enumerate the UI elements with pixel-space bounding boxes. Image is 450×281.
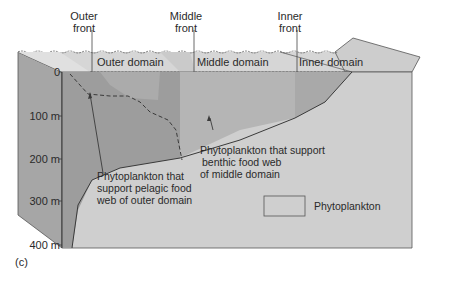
benthic-note-1: Phytoplankton that support xyxy=(200,144,325,156)
shelf-cross-section-diagram: Outer front Middle front Inner front Out… xyxy=(0,0,450,281)
legend-label: Phytoplankton xyxy=(314,200,381,212)
depth-tick-200: 200 m xyxy=(29,153,60,165)
legend-swatch xyxy=(264,196,305,216)
depth-tick-400: 400 m xyxy=(29,239,60,251)
panel-label: (c) xyxy=(15,256,28,268)
pelagic-note-3: web of outer domain xyxy=(96,194,192,206)
middle-domain-label: Middle domain xyxy=(197,56,269,68)
middle-front-label-2: front xyxy=(175,22,197,34)
benthic-note-2: benthic food web xyxy=(202,156,282,168)
depth-tick-300: 300 m xyxy=(29,195,60,207)
block-left-side xyxy=(18,52,62,248)
pelagic-note-1: Phytoplankton that xyxy=(97,170,184,182)
middle-front-label-1: Middle xyxy=(170,10,202,22)
outer-domain-label: Outer domain xyxy=(97,56,164,68)
pelagic-note-2: support pelagic food xyxy=(97,182,192,194)
depth-tick-100: 100 m xyxy=(29,110,60,122)
inner-domain-label: Inner domain xyxy=(299,56,363,68)
outer-front-label-1: Outer xyxy=(70,10,98,22)
outer-front-label-2: front xyxy=(73,22,95,34)
inner-front-label-1: Inner xyxy=(277,10,302,22)
benthic-note-3: of middle domain xyxy=(200,168,280,180)
inner-front-label-2: front xyxy=(279,22,301,34)
